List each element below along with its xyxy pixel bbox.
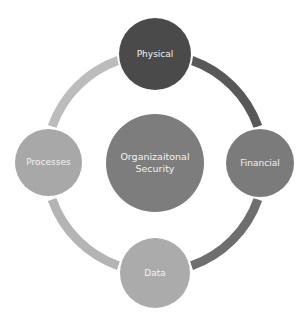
node-financial-label: Financial <box>236 158 283 169</box>
connector-data-processes <box>52 200 118 266</box>
center-node-organizational-security: Organizaitonal Security <box>106 114 204 212</box>
node-data-label: Data <box>140 268 170 279</box>
node-financial: Financial <box>226 129 294 197</box>
center-node-label: Organizaitonal Security <box>112 151 197 175</box>
node-physical-label: Physical <box>133 49 178 60</box>
connector-financial-data <box>192 200 258 266</box>
node-processes: Processes <box>15 129 82 196</box>
node-data: Data <box>120 238 190 308</box>
node-physical: Physical <box>119 18 191 90</box>
connector-processes-physical <box>52 60 118 126</box>
connector-physical-financial <box>192 60 258 126</box>
node-processes-label: Processes <box>22 157 74 168</box>
center-label-line2: Security <box>116 163 193 175</box>
security-cycle-diagram: Organizaitonal Security Physical Financi… <box>0 0 307 322</box>
center-label-line1: Organizaitonal <box>116 151 193 163</box>
